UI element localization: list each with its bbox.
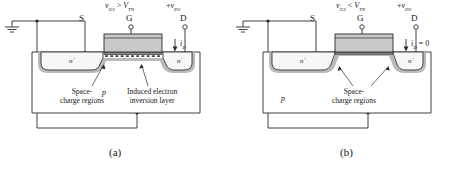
gate-terminal-node-b[interactable] bbox=[360, 25, 364, 29]
region-label-nplus-drain-b: n+ bbox=[408, 57, 414, 65]
region-label-nplus-drain-a: n+ bbox=[177, 57, 183, 65]
ground-symbol-b bbox=[236, 21, 250, 32]
annotation-inversion-line1-a: Induced electron bbox=[127, 87, 177, 96]
annotation-space-charge-b: Space- charge regions bbox=[332, 87, 376, 105]
drain-current-label-a: iD bbox=[180, 40, 186, 51]
drain-bias-label-a: +vDS bbox=[166, 2, 180, 13]
drain-current-arrow-a bbox=[173, 39, 178, 52]
annotation-space-charge-line1-a: Space- bbox=[72, 87, 92, 96]
region-label-nplus-source-a: n+ bbox=[69, 57, 75, 65]
drain-bias-label-b: +vDS bbox=[397, 2, 411, 13]
annotation-space-charge-line2-a: charge regions bbox=[60, 96, 104, 105]
annotation-inversion-line2-a: inversion layer bbox=[130, 96, 175, 105]
annotation-space-charge-line2-b: charge regions bbox=[332, 96, 376, 105]
drain-terminal-node-a[interactable] bbox=[183, 25, 187, 29]
drain-terminal-node-b[interactable] bbox=[414, 25, 418, 29]
gate-electrode-b bbox=[335, 34, 393, 52]
terminal-label-g-a: G bbox=[126, 14, 133, 23]
drain-current-arrow-b bbox=[404, 39, 409, 52]
gate-bias-label-b: vGS < VTN bbox=[336, 2, 365, 13]
terminal-label-s-b: S bbox=[310, 14, 315, 23]
region-label-p-a: p bbox=[102, 89, 106, 97]
annotation-space-charge-a: Space- charge regions bbox=[60, 87, 104, 105]
terminal-label-d-a: D bbox=[180, 14, 187, 23]
panel-a: vGS > VTN +vDS S G D iD Space- charge re… bbox=[0, 0, 232, 171]
drain-current-label-b: iD = 0 bbox=[411, 40, 429, 51]
terminal-label-s-a: S bbox=[79, 14, 84, 23]
ground-symbol-a bbox=[5, 21, 19, 32]
panel-b: vGS < VTN +vDS S G D iD = 0 Space- charg… bbox=[231, 0, 463, 171]
annotation-space-charge-line1-b: Space- bbox=[344, 87, 364, 96]
region-label-nplus-source-b: n+ bbox=[300, 57, 306, 65]
annotation-inversion-layer-a: Induced electron inversion layer bbox=[127, 87, 177, 105]
gate-terminal-node-a[interactable] bbox=[129, 25, 133, 29]
terminal-label-g-b: G bbox=[357, 14, 364, 23]
gate-electrode-a bbox=[104, 34, 162, 52]
terminal-label-d-b: D bbox=[411, 14, 418, 23]
gate-bias-label-a: vGS > VTN bbox=[105, 2, 134, 13]
region-label-p-b: p bbox=[281, 95, 285, 103]
caption-a: (a) bbox=[109, 146, 121, 158]
caption-b: (b) bbox=[340, 146, 353, 158]
